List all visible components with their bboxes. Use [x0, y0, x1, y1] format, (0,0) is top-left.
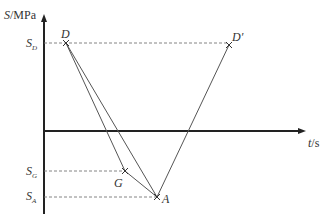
- y-axis-arrow-icon: [41, 14, 47, 22]
- marker-G-icon: [122, 168, 128, 174]
- y-tick-SA: SA: [26, 189, 37, 205]
- stress-time-diagram: S/MPa t/s SD SG SA D D′ G A: [0, 0, 333, 222]
- diagram-canvas: S/MPa t/s SD SG SA D D′ G A: [0, 0, 333, 222]
- point-label-A: A: [161, 192, 170, 206]
- point-label-G: G: [114, 176, 123, 190]
- x-axis-arrow-icon: [298, 128, 306, 134]
- x-axis-label: t/s: [308, 136, 320, 150]
- line-D-A: [66, 43, 157, 197]
- point-label-D: D: [60, 27, 70, 41]
- line-A-Dprime: [157, 45, 229, 197]
- y-tick-SD: SD: [26, 36, 37, 52]
- point-label-Dprime: D′: [231, 30, 244, 44]
- line-G-A: [125, 171, 157, 197]
- y-tick-SG: SG: [26, 164, 37, 180]
- y-axis-label: S/MPa: [4, 8, 37, 22]
- line-D-G: [66, 43, 125, 171]
